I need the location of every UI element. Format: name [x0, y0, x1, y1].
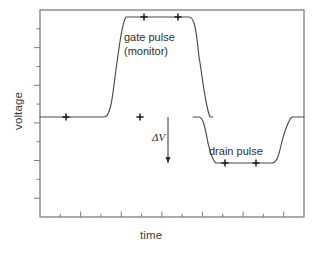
- y-axis-ticks: [34, 29, 40, 198]
- y-axis-label: voltage: [12, 81, 24, 141]
- gate-pulse-monitor-label: (monitor): [124, 45, 168, 57]
- delta-v-arrow: [165, 117, 170, 163]
- x-axis-label: time: [140, 229, 162, 241]
- chart-figure: voltage time gate pulse (monitor) drain …: [0, 0, 318, 253]
- x-axis-ticks: [60, 212, 283, 218]
- delta-v-label: ΔV: [152, 131, 165, 143]
- drain-pulse-label: drain pulse: [209, 145, 263, 157]
- gate-pulse-label: gate pulse: [124, 31, 175, 43]
